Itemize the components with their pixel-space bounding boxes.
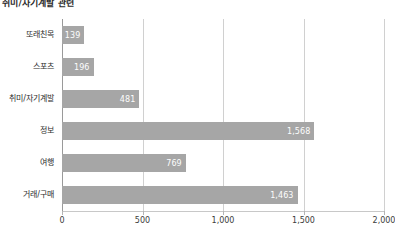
x-tick-label: 0 bbox=[59, 216, 64, 225]
bar: 1,463 bbox=[62, 186, 298, 204]
bar-series: 1391964811,5687691,463 bbox=[62, 19, 384, 211]
bar: 196 bbox=[62, 58, 94, 76]
bar: 139 bbox=[62, 26, 84, 44]
bar: 1,568 bbox=[62, 122, 314, 140]
gridline-2000 bbox=[384, 19, 385, 211]
bar-row: 769 bbox=[62, 147, 384, 179]
page-title: 취미/자기계발 관련 bbox=[2, 0, 74, 9]
x-tick-label: 2,000 bbox=[373, 216, 395, 225]
bar-value-label: 1,568 bbox=[287, 127, 310, 136]
x-tick-label: 1,000 bbox=[212, 216, 235, 225]
bar-row: 1,463 bbox=[62, 179, 384, 211]
category-label: 거래/구매 bbox=[23, 179, 54, 211]
category-label: 취미/자기계발 bbox=[9, 83, 54, 115]
plot-area: 1391964811,5687691,463 bbox=[62, 19, 384, 211]
bar-row: 481 bbox=[62, 83, 384, 115]
category-label: 또래친목 bbox=[26, 19, 54, 51]
x-tick bbox=[223, 211, 224, 215]
bar-value-label: 196 bbox=[74, 63, 90, 72]
x-axis-ticks bbox=[62, 211, 384, 215]
category-label: 정보 bbox=[40, 115, 54, 147]
category-label: 스포츠 bbox=[33, 51, 54, 83]
bar-value-label: 1,463 bbox=[270, 191, 293, 200]
bar-value-label: 769 bbox=[166, 159, 182, 168]
x-tick bbox=[62, 211, 63, 215]
bar-row: 139 bbox=[62, 19, 384, 51]
category-label: 여행 bbox=[40, 147, 54, 179]
x-axis-tick-labels: 05001,0001,5002,000 bbox=[62, 216, 384, 230]
bar: 481 bbox=[62, 90, 139, 108]
bar-row: 196 bbox=[62, 51, 384, 83]
x-tick-label: 1,500 bbox=[292, 216, 315, 225]
category-axis-labels: 또래친목스포츠취미/자기계발정보여행거래/구매 bbox=[0, 19, 58, 211]
x-tick bbox=[143, 211, 144, 215]
bar-value-label: 481 bbox=[120, 95, 136, 104]
bar-row: 1,568 bbox=[62, 115, 384, 147]
chart-title-strip: 취미/자기계발 관련 bbox=[0, 0, 385, 11]
bar: 769 bbox=[62, 154, 186, 172]
x-tick bbox=[304, 211, 305, 215]
bar-value-label: 139 bbox=[65, 31, 81, 40]
x-tick-label: 500 bbox=[135, 216, 150, 225]
x-tick bbox=[384, 211, 385, 215]
